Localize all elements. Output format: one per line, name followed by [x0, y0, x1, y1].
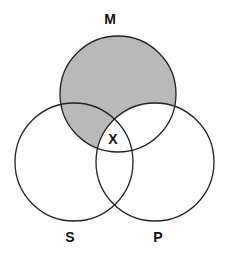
label-s: S: [65, 229, 74, 245]
label-p: P: [153, 229, 162, 245]
label-x: X: [108, 131, 118, 147]
venn-diagram: M S P X: [0, 0, 225, 253]
label-m: M: [104, 11, 116, 27]
